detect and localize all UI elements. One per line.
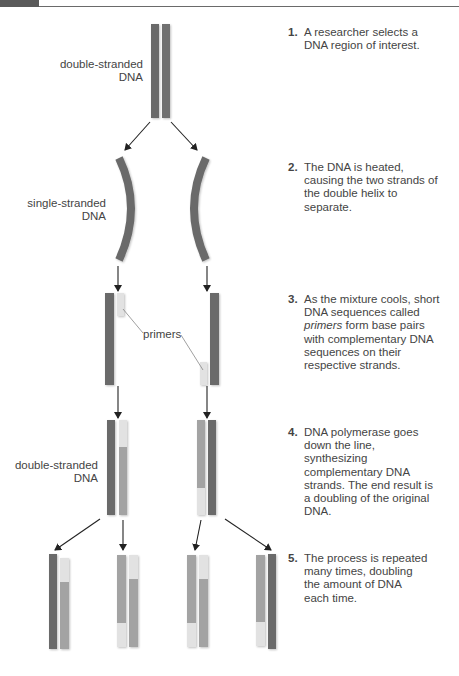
- step-text-part: As the mixture cools, short DNA sequence…: [304, 293, 440, 318]
- step-number: 2.: [288, 161, 298, 174]
- label-line: single-stranded: [10, 197, 106, 210]
- step-3: 3. As the mixture cools, short DNA seque…: [288, 293, 446, 372]
- step-number: 1.: [288, 26, 298, 39]
- label-line: DNA: [10, 472, 98, 485]
- label-primers: primers: [143, 328, 183, 341]
- copy-3: [187, 555, 208, 647]
- step-4: 4. DNA polymerase goes down the line, sy…: [288, 426, 438, 518]
- label-line: double-stranded: [40, 58, 143, 71]
- step-1: 1. A researcher selects a DNA region of …: [288, 26, 428, 52]
- label-line: DNA: [10, 210, 106, 223]
- step-number: 3.: [288, 293, 298, 306]
- step-text: The process is repeated many times, doub…: [304, 552, 428, 605]
- step-2: 2. The DNA is heated, causing the two st…: [288, 161, 443, 214]
- copy-2: [117, 555, 138, 647]
- step-text: The DNA is heated, causing the two stran…: [304, 161, 443, 214]
- label-double-stranded-dna-bottom: double-stranded DNA: [10, 459, 98, 485]
- copies-round-2: [49, 554, 276, 649]
- right-single-strand: [194, 158, 206, 260]
- primers-term: primers: [304, 319, 342, 331]
- copy-4: [256, 554, 276, 649]
- separation-arrows: [125, 122, 197, 150]
- left-single-strand: [119, 158, 131, 260]
- copy-1: [49, 554, 69, 649]
- step-text: DNA polymerase goes down the line, synth…: [304, 426, 438, 518]
- label-double-stranded-dna-top: double-stranded DNA: [40, 58, 143, 84]
- step-number: 5.: [288, 552, 298, 565]
- original-double-strand: [151, 24, 170, 118]
- step-5: 5. The process is repeated many times, d…: [288, 552, 428, 605]
- repeat-arrows: [55, 519, 271, 550]
- label-single-stranded-dna: single-stranded DNA: [10, 197, 106, 223]
- right-primer: [200, 362, 207, 385]
- extension-arrows: [118, 386, 207, 418]
- doubled-dna: [107, 420, 216, 515]
- step-text: A researcher selects a DNA region of int…: [304, 26, 428, 52]
- step-number: 4.: [288, 426, 298, 439]
- cooling-arrows: [118, 266, 207, 291]
- single-strands: [119, 158, 206, 260]
- label-line: double-stranded: [10, 459, 98, 472]
- step-text: As the mixture cools, short DNA sequence…: [304, 293, 446, 372]
- left-primer: [117, 293, 124, 316]
- label-line: DNA: [40, 71, 143, 84]
